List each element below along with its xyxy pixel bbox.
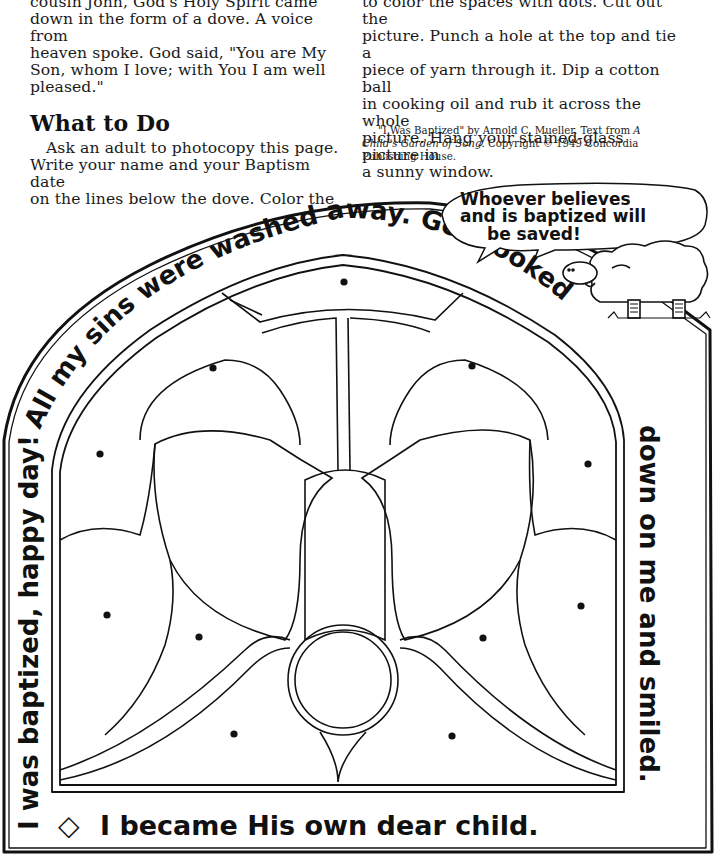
diamond-ornament-icon: ◇ <box>58 809 80 842</box>
color-dot <box>479 634 486 641</box>
left-side-text: I was baptized, happy day! <box>14 435 44 830</box>
color-dot <box>96 450 103 457</box>
color-dot <box>230 730 237 737</box>
color-dots <box>96 278 591 739</box>
window-leading <box>60 293 616 782</box>
color-dot <box>103 611 110 618</box>
inner-window-frame <box>52 255 624 792</box>
color-dot <box>584 460 591 467</box>
color-dot <box>209 364 216 371</box>
speech-line: be saved! <box>487 224 581 244</box>
color-dot <box>195 633 202 640</box>
right-side-text-path: down on me and smiled. <box>634 425 664 783</box>
right-side-text: down on me and smiled. <box>634 425 664 783</box>
color-dot <box>468 362 475 369</box>
left-side-text-path: I was baptized, happy day! <box>14 435 44 830</box>
color-dot <box>577 602 584 609</box>
speech-line: and is baptized will <box>460 206 646 226</box>
bottom-text: I became His own dear child. <box>100 810 539 841</box>
lamb-icon <box>563 241 710 318</box>
stained-glass-artwork: All my sins were washed away. God looked… <box>0 0 724 865</box>
color-dot <box>448 732 455 739</box>
color-dot <box>340 278 347 285</box>
